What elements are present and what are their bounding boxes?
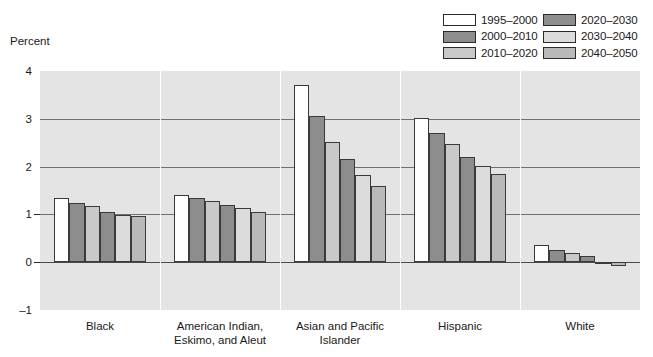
x-axis-category-label: Asian and Pacific Islander [280,320,400,347]
plot-wrapper: –101234 BlackAmerican Indian, Eskimo, an… [0,0,653,357]
y-axis-tick-mark [34,262,40,263]
bar [131,216,146,262]
bar [340,159,355,262]
zero-line [40,262,640,263]
bar [189,198,204,263]
bar [595,262,610,264]
group-separator [280,71,281,310]
y-axis-tick-label: –1 [8,304,32,316]
bar [251,212,266,262]
bar [565,253,580,263]
bar [611,262,626,266]
bar [54,198,69,263]
group-separator [400,71,401,310]
x-axis-category-label: American Indian, Eskimo, and Aleut [160,320,280,347]
chart-root: 1995–2000 2020–2030 2000–2010 2030–2040 … [0,0,653,357]
bar [69,203,84,262]
bar [205,201,220,262]
bar [371,186,386,262]
group-separator [520,71,521,310]
x-axis-category-label: White [520,320,640,334]
bar [309,116,324,262]
y-axis-tick-label: 1 [8,208,32,220]
bar [445,144,460,262]
bar [85,206,100,262]
bar [220,205,235,262]
bar [580,256,595,262]
y-axis-tick-label: 2 [8,161,32,173]
bar [355,175,370,262]
bar [414,118,429,262]
x-axis-category-label: Hispanic [400,320,520,334]
y-axis-tick-mark [34,214,40,215]
bar [100,212,115,263]
bar [475,166,490,263]
gridline [40,119,640,120]
bar [235,208,250,262]
y-axis-tick-label: 0 [8,256,32,268]
group-separator [160,71,161,310]
bar [429,133,444,262]
bar [549,250,564,262]
bar [115,215,130,262]
bar [174,195,189,262]
bar [534,245,549,262]
y-axis-tick-label: 4 [8,65,32,77]
bar [491,174,506,262]
bar [460,157,475,262]
bar [294,85,309,262]
plot-area [40,71,640,310]
bar [325,142,340,262]
y-axis-tick-label: 3 [8,113,32,125]
x-axis-category-label: Black [40,320,160,334]
